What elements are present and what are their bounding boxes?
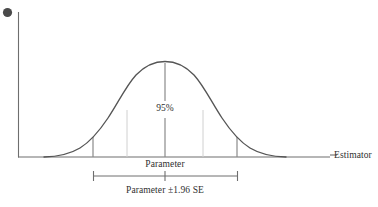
distribution-figure: 95% Parameter Parameter ±1.96 SE Estimat… [0, 0, 378, 207]
confidence-interval-label: Parameter ±1.96 SE [0, 185, 330, 195]
coverage-label: 95% [0, 103, 330, 113]
x-axis-label: Estimator [334, 150, 372, 160]
bullet-icon [3, 8, 12, 17]
parameter-label: Parameter [0, 159, 330, 169]
